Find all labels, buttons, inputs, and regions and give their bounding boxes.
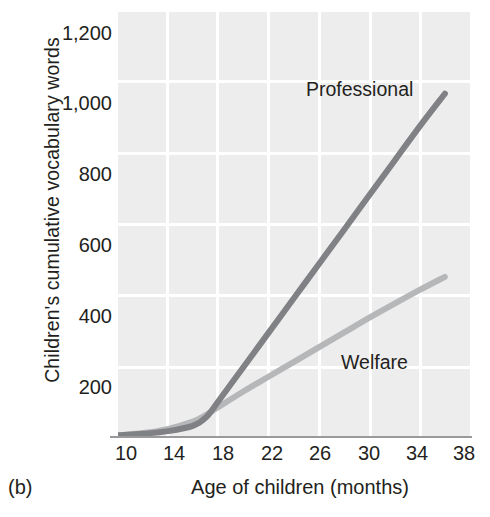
x-tick-label: 10 (106, 443, 146, 463)
x-tick-label: 18 (203, 443, 243, 463)
plot-area (118, 12, 470, 437)
x-axis-line (110, 436, 472, 438)
x-tick-label: 22 (252, 443, 292, 463)
x-tick-label: 30 (349, 443, 389, 463)
x-tick-label: 14 (154, 443, 194, 463)
figure-panel: Children's cumulative vocabulary words 1… (0, 0, 490, 517)
y-axis-tick-labels: 1,200 1,000 800 600 400 200 (0, 0, 112, 450)
x-tick-label: 34 (397, 443, 437, 463)
x-axis-tick-labels: 10 14 18 22 26 30 34 38 (0, 443, 490, 473)
series-label-professional: Professional (306, 78, 413, 101)
series-label-welfare: Welfare (341, 351, 408, 374)
y-tick-label: 400 (0, 306, 112, 326)
x-tick-label: 38 (444, 443, 484, 463)
y-tick-label: 1,000 (0, 93, 112, 113)
y-tick-label: 800 (0, 164, 112, 184)
x-axis-title: Age of children (months) (140, 476, 460, 499)
panel-identifier: (b) (8, 476, 32, 499)
series-line-professional (118, 94, 445, 436)
y-tick-label: 1,200 (0, 23, 112, 43)
y-tick-label: 600 (0, 235, 112, 255)
y-tick-label: 200 (0, 377, 112, 397)
x-tick-label: 26 (300, 443, 340, 463)
series-lines (118, 12, 470, 437)
